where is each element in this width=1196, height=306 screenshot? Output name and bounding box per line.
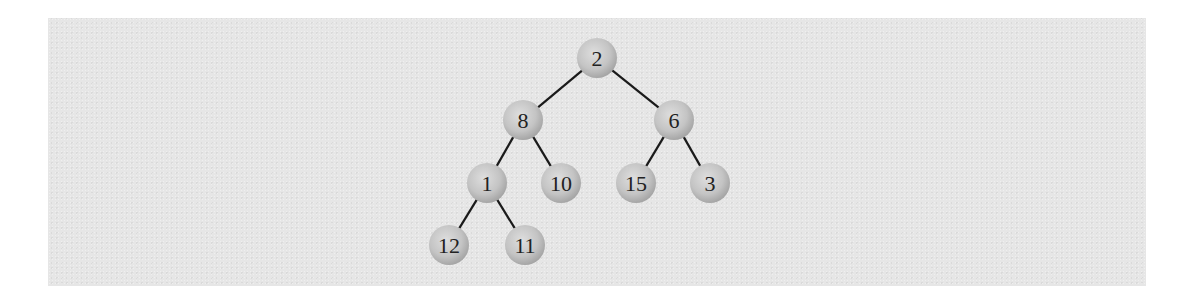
tree-node-3: 3 <box>690 163 730 203</box>
tree-node-12: 12 <box>429 225 469 265</box>
tree-node-6: 6 <box>654 100 694 140</box>
node-label: 10 <box>550 171 572 196</box>
node-label: 1 <box>482 171 493 196</box>
tree-edge-6-15 <box>645 135 664 167</box>
node-label: 3 <box>705 171 716 196</box>
tree-edge-1-12 <box>458 198 477 229</box>
node-label: 15 <box>625 171 647 196</box>
node-label: 12 <box>438 233 460 258</box>
tree-node-15: 15 <box>616 163 656 203</box>
node-label: 8 <box>518 108 529 133</box>
binary-tree-diagram: 2 8 6 1 10 15 3 12 11 <box>0 0 1196 306</box>
tree-node-8: 8 <box>503 100 543 140</box>
node-label: 11 <box>514 233 535 258</box>
tree-node-10: 10 <box>541 163 581 203</box>
node-label: 6 <box>669 108 680 133</box>
tree-edge-8-1 <box>496 136 514 168</box>
tree-edge-8-10 <box>532 135 551 167</box>
tree-node-11: 11 <box>505 225 545 265</box>
tree-edge-2-8 <box>537 70 583 109</box>
tree-edges <box>458 69 701 229</box>
tree-node-1: 1 <box>467 163 507 203</box>
tree-edge-6-3 <box>683 136 701 168</box>
tree-edge-2-6 <box>611 69 660 108</box>
node-label: 2 <box>592 46 603 71</box>
tree-node-2: 2 <box>577 38 617 78</box>
tree-edge-1-11 <box>496 198 515 229</box>
